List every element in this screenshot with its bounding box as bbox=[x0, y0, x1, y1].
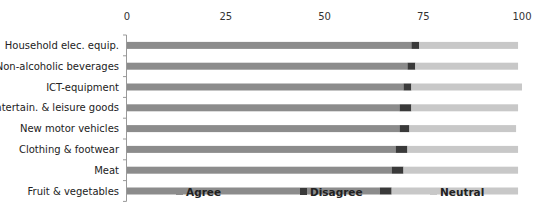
bar-row bbox=[127, 146, 518, 153]
bar-neutral bbox=[409, 125, 516, 132]
category-label: Meat bbox=[94, 165, 119, 176]
legend-label-agree: Agree bbox=[186, 186, 221, 198]
bar-neutral bbox=[415, 63, 518, 70]
x-tick-label: 25 bbox=[219, 11, 232, 22]
category-label: Entertain. & leisure goods bbox=[0, 102, 119, 113]
bars bbox=[127, 42, 522, 195]
bar-disagree bbox=[407, 63, 415, 70]
category-label: Fruit & vegetables bbox=[28, 186, 119, 197]
x-axis-ticks: 0255075100 bbox=[124, 11, 532, 22]
category-label: Household elec. equip. bbox=[5, 40, 119, 51]
bar-neutral bbox=[411, 104, 518, 111]
bar-disagree bbox=[400, 104, 412, 111]
bar-disagree bbox=[396, 146, 408, 153]
x-tick-label: 0 bbox=[124, 11, 130, 22]
y-axis-tick-marks bbox=[123, 35, 127, 201]
bar-row bbox=[127, 167, 518, 174]
legend-swatch-neutral bbox=[430, 188, 437, 195]
category-label: ICT-equipment bbox=[46, 82, 119, 93]
category-label: Non-alcoholic beverages bbox=[0, 61, 119, 72]
bar-neutral bbox=[404, 167, 519, 174]
bar-disagree bbox=[411, 42, 419, 49]
bar-neutral bbox=[419, 42, 518, 49]
bar-neutral bbox=[407, 146, 518, 153]
bar-row bbox=[127, 63, 518, 70]
bar-row bbox=[127, 125, 516, 132]
bar-agree bbox=[127, 104, 400, 111]
legend-swatch-disagree bbox=[300, 188, 307, 195]
x-tick-label: 100 bbox=[512, 11, 531, 22]
legend-label-neutral: Neutral bbox=[440, 186, 484, 198]
bar-disagree bbox=[380, 188, 392, 195]
bar-disagree bbox=[404, 84, 412, 91]
bar-agree bbox=[127, 84, 404, 91]
bar-disagree bbox=[392, 167, 404, 174]
bar-agree bbox=[127, 125, 400, 132]
bar-agree bbox=[127, 167, 392, 174]
legend-swatch-agree bbox=[176, 188, 183, 195]
x-tick-label: 50 bbox=[318, 11, 331, 22]
category-label: Clothing & footwear bbox=[19, 144, 120, 155]
bar-neutral bbox=[411, 84, 522, 91]
category-label: New motor vehicles bbox=[20, 123, 119, 134]
x-tick-label: 75 bbox=[417, 11, 430, 22]
bar-agree bbox=[127, 42, 411, 49]
bar-row bbox=[127, 84, 522, 91]
stacked-bar-chart: 0255075100 Household elec. equip.Non-alc… bbox=[0, 0, 535, 209]
bar-row bbox=[127, 42, 518, 49]
bar-agree bbox=[127, 63, 407, 70]
bar-disagree bbox=[400, 125, 410, 132]
legend-label-disagree: Disagree bbox=[310, 186, 363, 198]
bar-row bbox=[127, 104, 518, 111]
bar-agree bbox=[127, 146, 396, 153]
category-labels: Household elec. equip.Non-alcoholic beve… bbox=[0, 40, 120, 197]
